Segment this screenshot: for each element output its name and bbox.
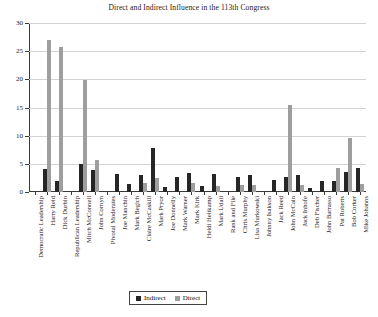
bar-indirect[interactable] [320, 181, 324, 192]
bar-group[interactable] [330, 23, 342, 192]
x-tick-label: Deb Fischer [314, 196, 321, 228]
x-tick-label: Mark Pryor [158, 196, 165, 227]
bar-group[interactable] [354, 23, 366, 192]
x-tick-label: Harry Reid [50, 196, 57, 225]
bar-direct[interactable] [300, 185, 304, 192]
bar-group[interactable] [161, 23, 173, 192]
bar-group[interactable] [137, 23, 149, 192]
x-tick-label: John McCain [290, 196, 297, 231]
x-tick-mark [252, 192, 253, 195]
bar-group[interactable] [246, 23, 258, 192]
x-tick-label: Mark Begich [134, 196, 141, 231]
x-tick-label: Joe Donnelly [170, 196, 177, 231]
bar-group[interactable] [53, 23, 65, 192]
y-tick-label: 25 [16, 48, 23, 55]
bar-group[interactable] [294, 23, 306, 192]
x-tick-label: Mitch McConnell [86, 196, 93, 243]
bar-indirect[interactable] [272, 180, 276, 192]
bar-direct[interactable] [288, 105, 292, 192]
bar-group[interactable] [65, 23, 77, 192]
x-tick-label: Dick Durbin [62, 196, 69, 229]
bar-group[interactable] [270, 23, 282, 192]
bar-indirect[interactable] [127, 184, 131, 192]
legend-item[interactable]: Direct [175, 294, 201, 302]
x-tick-mark [360, 192, 361, 195]
x-tick-label: Democratic Leadership [38, 196, 45, 258]
y-tick-label: 20 [16, 76, 23, 83]
chart-container: Direct and Indirect Influence in the 113… [0, 0, 378, 317]
bar-group[interactable] [113, 23, 125, 192]
legend-swatch-icon [175, 296, 180, 301]
x-tick-label: Mark Warner [182, 196, 189, 231]
bar-group[interactable] [89, 23, 101, 192]
x-tick-label: Mike Johanns [363, 196, 370, 233]
bar-direct[interactable] [47, 40, 51, 192]
bar-group[interactable] [77, 23, 89, 192]
x-tick-label: Heidi Heitkamp [206, 196, 213, 238]
x-tick-mark [35, 192, 36, 195]
bar-group[interactable] [185, 23, 197, 192]
bar-direct[interactable] [360, 184, 364, 192]
x-tick-mark [300, 192, 301, 195]
bar-direct[interactable] [83, 80, 87, 192]
x-tick-mark [240, 192, 241, 195]
bar-direct[interactable] [348, 138, 352, 192]
x-tick-mark [264, 192, 265, 195]
x-tick-mark [288, 192, 289, 195]
bar-group[interactable] [173, 23, 185, 192]
x-tick-label: Chris Murphy [242, 196, 249, 233]
x-tick-mark [191, 192, 192, 195]
y-tick-label: 15 [16, 104, 23, 111]
bar-group[interactable] [149, 23, 161, 192]
y-axis: 051015202530 [0, 23, 29, 192]
bar-group[interactable] [282, 23, 294, 192]
x-tick-label: Lisa Murkowski [254, 196, 261, 239]
bar-group[interactable] [210, 23, 222, 192]
y-tick-mark [25, 192, 29, 193]
y-tick-label: 10 [16, 132, 23, 139]
bar-group[interactable] [101, 23, 113, 192]
legend-swatch-icon [136, 296, 141, 301]
bar-group[interactable] [234, 23, 246, 192]
bar-direct[interactable] [95, 160, 99, 192]
x-tick-mark [312, 192, 313, 195]
bar-group[interactable] [222, 23, 234, 192]
bar-group[interactable] [258, 23, 270, 192]
x-tick-label: Pivotal Moderates [110, 196, 117, 244]
y-tick-label: 30 [16, 20, 23, 27]
bar-direct[interactable] [155, 178, 159, 192]
x-tick-mark [119, 192, 120, 195]
x-tick-mark [167, 192, 168, 195]
x-tick-mark [324, 192, 325, 195]
chart-title: Direct and Indirect Influence in the 113… [0, 3, 378, 12]
bar-group[interactable] [306, 23, 318, 192]
x-tick-label: Joe Manchin [122, 196, 129, 230]
bar-direct[interactable] [252, 185, 256, 192]
x-tick-mark [131, 192, 132, 195]
bar-direct[interactable] [191, 183, 195, 192]
bar-group[interactable] [29, 23, 41, 192]
x-tick-mark [143, 192, 144, 195]
bar-group[interactable] [198, 23, 210, 192]
bar-group[interactable] [342, 23, 354, 192]
bar-group[interactable] [125, 23, 137, 192]
bar-direct[interactable] [143, 183, 147, 192]
x-tick-label: John Barrasso [326, 196, 333, 233]
bar-group[interactable] [318, 23, 330, 192]
bar-direct[interactable] [59, 47, 63, 192]
x-tick-label: Bob Corker [351, 196, 358, 227]
x-tick-mark [228, 192, 229, 195]
bar-direct[interactable] [240, 185, 244, 192]
y-tick-label: 5 [20, 160, 24, 167]
x-tick-mark [83, 192, 84, 195]
x-tick-label: Pat Roberts [339, 196, 346, 227]
bar-indirect[interactable] [115, 174, 119, 192]
legend-item[interactable]: Indirect [136, 294, 166, 302]
legend-label: Indirect [144, 294, 166, 302]
x-tick-label: Mark Kirk [194, 196, 201, 224]
bar-group[interactable] [41, 23, 53, 192]
bar-direct[interactable] [336, 168, 340, 192]
x-tick-mark [95, 192, 96, 195]
bar-indirect[interactable] [175, 177, 179, 192]
x-tick-mark [59, 192, 60, 195]
